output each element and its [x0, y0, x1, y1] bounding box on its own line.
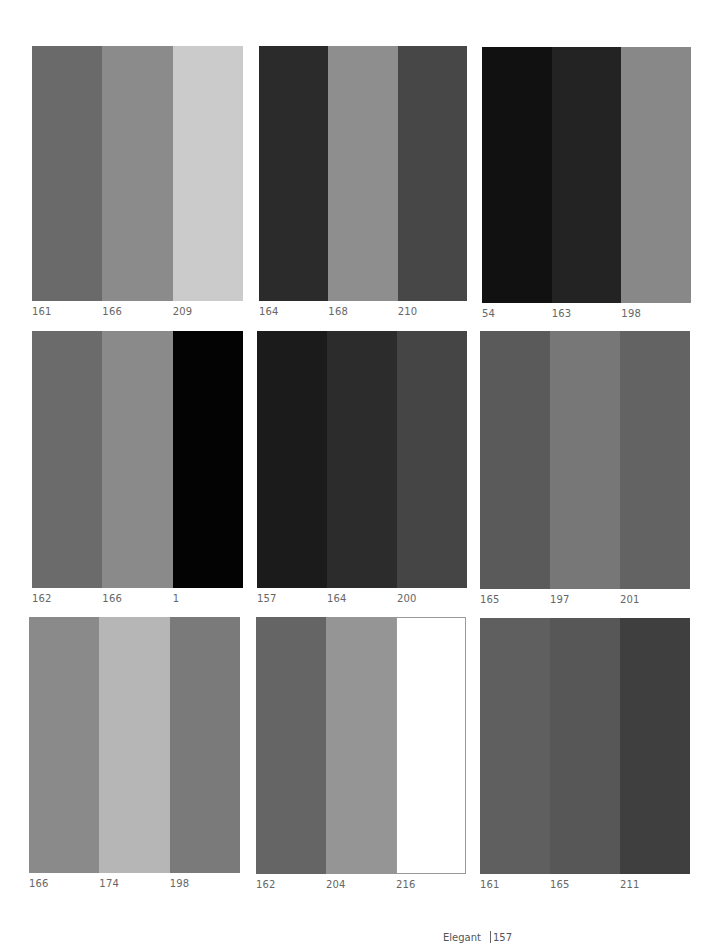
color-code-label: 54: [482, 308, 552, 319]
section-title: Elegant: [443, 932, 481, 943]
color-stripe: [397, 331, 467, 588]
color-stripe: [32, 46, 102, 301]
swatch-labels: 161165211: [480, 879, 690, 890]
color-code-label: 197: [550, 594, 620, 605]
color-code-label: 1: [173, 593, 243, 604]
color-code-label: 161: [480, 879, 550, 890]
color-code-label: 161: [32, 306, 102, 317]
color-code-label: 164: [327, 593, 397, 604]
color-code-label: 210: [398, 306, 467, 317]
color-code-label: 166: [29, 878, 99, 889]
page-number: 157: [493, 932, 512, 943]
color-code-label: 165: [550, 879, 620, 890]
color-stripe: [99, 617, 169, 873]
swatch-labels: 54163198: [482, 308, 691, 319]
color-code-label: 216: [396, 879, 466, 890]
color-code-label: 166: [102, 593, 172, 604]
color-code-label: 200: [397, 593, 467, 604]
color-swatch-panel: [257, 331, 467, 588]
color-swatch-panel: [259, 46, 467, 301]
swatch-labels: 165197201: [480, 594, 690, 605]
color-swatch-panel: [482, 47, 691, 303]
color-code-label: 164: [259, 306, 328, 317]
color-swatch-panel: [32, 331, 243, 588]
color-code-label: 165: [480, 594, 550, 605]
color-stripe: [29, 617, 99, 873]
swatch-labels: 161166209: [32, 306, 243, 317]
color-stripe: [259, 46, 328, 301]
color-code-label: 157: [257, 593, 327, 604]
color-stripe: [102, 331, 172, 588]
color-swatch-panel: [480, 618, 690, 874]
color-stripe: [552, 47, 622, 303]
color-stripe: [170, 617, 240, 873]
color-code-label: 174: [99, 878, 169, 889]
color-code-label: 163: [552, 308, 622, 319]
color-code-label: 201: [620, 594, 690, 605]
color-code-label: 204: [326, 879, 396, 890]
swatch-labels: 162204216: [256, 879, 466, 890]
color-code-label: 166: [102, 306, 172, 317]
color-stripe: [398, 46, 467, 301]
page-footer: Elegant 157: [443, 931, 512, 943]
color-stripe: [32, 331, 102, 588]
color-code-label: 198: [170, 878, 240, 889]
color-stripe: [256, 617, 326, 874]
color-code-label: 209: [173, 306, 243, 317]
color-stripe: [621, 47, 691, 303]
color-stripe: [102, 46, 172, 301]
color-stripe: [327, 331, 397, 588]
swatch-labels: 157164200: [257, 593, 467, 604]
color-stripe: [173, 46, 243, 301]
color-stripe: [620, 331, 690, 589]
color-code-label: 162: [32, 593, 102, 604]
color-swatch-panel: [256, 617, 466, 874]
swatch-labels: 164168210: [259, 306, 467, 317]
color-stripe: [550, 331, 620, 589]
color-stripe: [173, 331, 243, 588]
color-stripe: [326, 617, 396, 874]
color-stripe: [328, 46, 397, 301]
color-stripe: [480, 618, 550, 874]
color-stripe: [480, 331, 550, 589]
color-stripe: [257, 331, 327, 588]
color-stripe: [482, 47, 552, 303]
color-code-label: 211: [620, 879, 690, 890]
color-stripe: [550, 618, 620, 874]
color-swatch-panel: [32, 46, 243, 301]
color-swatch-panel: [480, 331, 690, 589]
color-code-label: 168: [328, 306, 397, 317]
footer-divider: [490, 931, 491, 943]
color-code-label: 162: [256, 879, 326, 890]
color-swatch-panel: [29, 617, 240, 873]
color-stripe: [620, 618, 690, 874]
color-stripe: [396, 617, 466, 874]
color-code-label: 198: [621, 308, 691, 319]
swatch-labels: 166174198: [29, 878, 240, 889]
swatch-labels: 1621661: [32, 593, 243, 604]
